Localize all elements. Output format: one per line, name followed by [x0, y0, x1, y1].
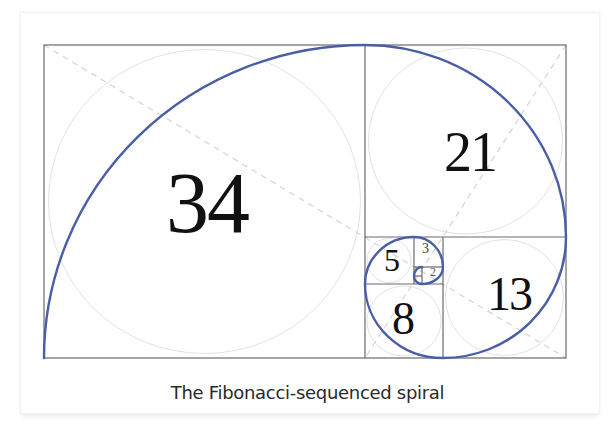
figure-caption: The Fibonacci-sequenced spiral	[0, 382, 615, 403]
square-label-8: 8	[392, 296, 415, 342]
square-label-2: 2	[430, 266, 436, 278]
square-label-5: 5	[384, 244, 400, 276]
square-label-13: 13	[487, 270, 531, 318]
square-label-21: 21	[444, 124, 496, 180]
fibonacci-spiral-diagram	[0, 0, 615, 446]
square-label-34: 34	[166, 160, 248, 246]
square-label-3: 3	[422, 242, 429, 256]
